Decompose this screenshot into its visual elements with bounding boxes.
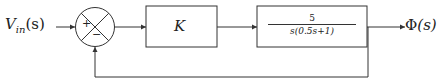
plant-transfer-function: 5 s(0.5s+1) xyxy=(268,13,356,37)
block-diagram: Vin(s) + − K 5 s(0.5s+1) Φ(s) xyxy=(0,0,448,84)
plant-denominator: s(0.5s+1) xyxy=(268,25,356,37)
diagram-wires xyxy=(0,0,448,84)
gain-block-label: K xyxy=(174,17,185,35)
input-label: Vin(s) xyxy=(5,15,45,35)
plus-sign: + xyxy=(82,17,91,30)
plant-numerator: 5 xyxy=(268,13,356,25)
output-label: Φ(s) xyxy=(405,16,437,34)
minus-sign: − xyxy=(92,28,101,41)
